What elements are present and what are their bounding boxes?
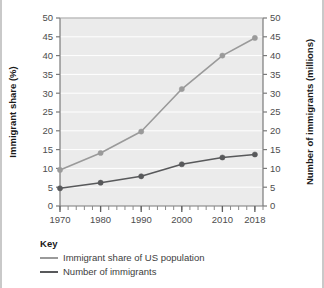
left-axis-title: Immigrant share (%) <box>7 66 18 157</box>
legend-title: Key <box>40 238 310 249</box>
y-tick-label-right: 15 <box>270 144 281 155</box>
y-tick-label-right: 30 <box>270 88 281 99</box>
chart-plot-region: 0055101015152020252530303535404045455050… <box>2 0 324 236</box>
y-tick-label-left: 20 <box>42 125 53 136</box>
y-tick-label-left: 15 <box>42 144 53 155</box>
data-point <box>139 129 144 134</box>
y-tick-label-left: 50 <box>42 12 53 23</box>
chart-legend: Key Immigrant share of US population Num… <box>40 238 310 279</box>
x-tick-label: 2000 <box>171 214 192 225</box>
legend-item-number-of-immigrants: Number of immigrants <box>40 265 310 278</box>
data-point <box>252 35 257 40</box>
data-point <box>57 167 62 172</box>
y-tick-label-right: 5 <box>270 182 275 193</box>
y-tick-label-right: 20 <box>270 125 281 136</box>
line-chart: 0055101015152020252530303535404045455050… <box>2 0 324 236</box>
y-tick-label-right: 35 <box>270 69 281 80</box>
y-tick-label-left: 30 <box>42 88 53 99</box>
data-point <box>57 186 62 191</box>
y-tick-label-left: 35 <box>42 69 53 80</box>
y-tick-label-left: 45 <box>42 31 53 42</box>
legend-label-number-of-immigrants: Number of immigrants <box>63 266 156 277</box>
figure-container: 0055101015152020252530303535404045455050… <box>0 0 324 288</box>
right-axis-title: Number of immigrants (millions) <box>304 39 315 185</box>
data-point <box>179 86 184 91</box>
legend-swatch-immigrant-share <box>40 257 58 259</box>
y-tick-label-left: 0 <box>48 200 53 211</box>
legend-item-immigrant-share: Immigrant share of US population <box>40 251 310 264</box>
y-tick-label-left: 40 <box>42 50 53 61</box>
data-point <box>98 150 103 155</box>
x-tick-label: 1980 <box>90 214 111 225</box>
x-tick-label: 1990 <box>131 214 152 225</box>
y-tick-label-left: 5 <box>48 182 53 193</box>
y-tick-label-right: 40 <box>270 50 281 61</box>
data-point <box>139 174 144 179</box>
y-tick-label-right: 45 <box>270 31 281 42</box>
x-tick-label: 2018 <box>244 214 265 225</box>
x-axis-ticks: 197019801990200020102018 <box>49 206 265 225</box>
y-tick-label-left: 10 <box>42 163 53 174</box>
y-tick-label-right: 25 <box>270 106 281 117</box>
data-point <box>252 152 257 157</box>
y-tick-label-right: 10 <box>270 163 281 174</box>
x-tick-label: 1970 <box>49 214 70 225</box>
x-tick-label: 2010 <box>212 214 233 225</box>
legend-label-immigrant-share: Immigrant share of US population <box>63 252 205 263</box>
y-tick-label-left: 25 <box>42 106 53 117</box>
data-point <box>220 155 225 160</box>
y-tick-label-right: 0 <box>270 200 275 211</box>
data-point <box>220 53 225 58</box>
data-point <box>179 162 184 167</box>
legend-swatch-number-of-immigrants <box>40 271 58 273</box>
y-tick-label-right: 50 <box>270 12 281 23</box>
data-point <box>98 180 103 185</box>
